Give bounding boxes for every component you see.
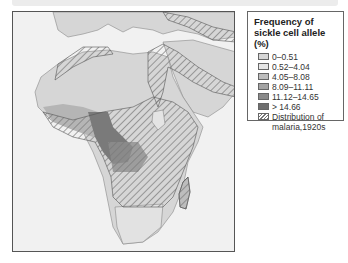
legend-label: 11.12–14.65 [272, 92, 319, 102]
hatch-swatch-icon [258, 113, 269, 120]
legend-label: 4.05–8.08 [272, 72, 310, 82]
legend-label: Distribution of malaria,1920s [272, 112, 337, 132]
southern-africa-region [115, 204, 163, 244]
legend-item: 0–0.51 [258, 52, 337, 62]
africa-map [13, 12, 235, 252]
top-bar [12, 0, 338, 6]
legend-swatch [258, 63, 269, 70]
legend-label: 0.52–4.04 [272, 62, 310, 72]
legend-label: > 14.66 [272, 102, 301, 112]
legend-item: > 14.66 [258, 102, 337, 112]
legend-swatch [258, 83, 269, 90]
legend-swatch [258, 53, 269, 60]
legend-item: 4.05–8.08 [258, 72, 337, 82]
legend-swatch [258, 103, 269, 110]
legend-swatch [258, 73, 269, 80]
legend-label: 8.09–11.11 [272, 82, 313, 92]
legend-swatch [258, 93, 269, 100]
legend-title: Frequency of sickle cell allele (%) [254, 16, 337, 49]
map-legend: Frequency of sickle cell allele (%) 0–0.… [247, 11, 344, 121]
legend-item: 0.52–4.04 [258, 62, 337, 72]
legend-item: 8.09–11.11 [258, 82, 337, 92]
map-panel [12, 11, 235, 252]
legend-item: 11.12–14.65 [258, 92, 337, 102]
legend-item-hatch: Distribution of malaria,1920s [258, 112, 337, 132]
legend-label: 0–0.51 [272, 52, 298, 62]
